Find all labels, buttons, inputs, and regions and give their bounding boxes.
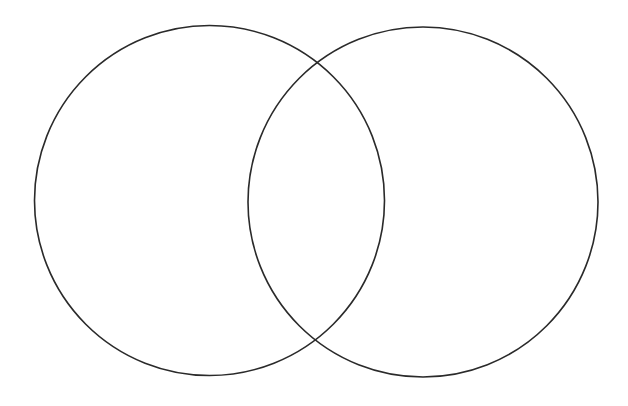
venn-diagram-canvas [0, 0, 628, 406]
venn-circle-left [35, 26, 385, 376]
venn-diagram [0, 0, 628, 406]
venn-circle-right [248, 27, 598, 377]
